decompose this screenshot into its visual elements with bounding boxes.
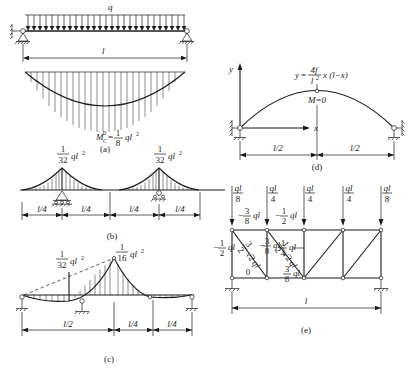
peak-label-left-b: 1 32 ql 2 <box>57 144 85 165</box>
span-label-e: l <box>305 296 308 306</box>
load-1-num: ql <box>234 183 242 193</box>
support-right-c <box>186 295 198 311</box>
bottom-chord-2-den: 8 <box>285 274 290 284</box>
eq-lhs: y <box>294 70 299 80</box>
top-chord-1-sign: − <box>238 210 243 220</box>
eq-numerator: 4f <box>310 65 319 75</box>
left-vert-den: 2 <box>220 248 225 258</box>
panel-e-caption: (e) <box>301 325 311 335</box>
support-left-c <box>16 295 28 311</box>
moment-curve-left-b <box>22 168 102 190</box>
dim-c-2: l/4 <box>128 319 138 329</box>
load-5-den: 8 <box>385 194 390 204</box>
load-label-4: ql 4 <box>344 183 354 204</box>
dimensions-d: l/2 l/2 <box>240 105 394 160</box>
bottom-chord-2-num: 3 <box>285 264 290 274</box>
top-chord-1-term: ql <box>253 210 261 220</box>
peak-small-den: 32 <box>58 260 67 270</box>
peak-large-sup: 2 <box>141 248 144 254</box>
y-axis-label: y <box>228 64 233 74</box>
top-chord-2-term: ql <box>290 210 298 220</box>
moment-curve-right-b <box>119 168 199 190</box>
support-center-c <box>75 299 89 314</box>
span-dimension-e: l <box>232 291 381 314</box>
support-left-d <box>230 120 247 140</box>
eq-denominator: l <box>311 76 314 86</box>
bottom-chord-2-term: ql <box>293 268 301 278</box>
peak-label-small-c: 1 32 ql 2 <box>56 249 84 270</box>
dim-c-1: l/2 <box>63 319 73 329</box>
peak-large-den: 16 <box>118 253 128 263</box>
distributed-load-arrows-a <box>26 15 186 30</box>
moment-term: ql <box>125 132 133 142</box>
mid-vert-term: ql <box>289 242 297 252</box>
left-vert-term: ql <box>228 242 236 252</box>
left-vert-sign: − <box>213 242 218 252</box>
load-label-1: ql 8 <box>233 183 243 204</box>
panel-d-caption: (d) <box>312 162 323 172</box>
load-4-den: 4 <box>347 194 352 204</box>
span-label-a: l <box>102 46 105 56</box>
arch-equation-d: y = 4f l 2 x (l−x) <box>294 65 348 86</box>
moment-zero-label: M=0 <box>307 95 327 105</box>
peak-right-num: 1 <box>158 144 163 154</box>
peak-small-term: ql <box>70 256 78 266</box>
moment-superscript: 0 <box>103 130 106 136</box>
diag-2-term: ql <box>273 240 281 250</box>
peak-right-sup: 2 <box>179 150 182 156</box>
eq-denominator-sup: 2 <box>316 75 319 81</box>
y-axis-d: y <box>228 63 242 128</box>
load-label-2: ql 4 <box>268 183 278 204</box>
dim-d-1: l/2 <box>273 143 283 153</box>
dim-b-2: l/4 <box>81 204 91 214</box>
moment-term-sup: 2 <box>136 131 139 137</box>
panel-c: 1 32 ql 2 1 16 ql 2 <box>14 240 229 368</box>
dim-b-4: l/4 <box>175 204 185 214</box>
peak-small-num: 1 <box>60 249 65 259</box>
load-label-5: ql 8 <box>382 183 392 204</box>
panel-c-caption: (c) <box>104 354 114 364</box>
support-center-right-b <box>151 191 166 202</box>
left-vert-num: 1 <box>220 238 225 248</box>
moment-diagram-a <box>25 72 185 132</box>
dimensions-c: l/2 l/4 l/4 <box>22 300 192 336</box>
mid-vert-den: 4 <box>281 248 286 258</box>
top-chord-2-sign: − <box>275 210 280 220</box>
support-right-d <box>388 120 405 140</box>
peak-right-den: 32 <box>156 155 165 165</box>
load-5-num: ql <box>383 183 391 193</box>
peak-left-den: 32 <box>59 155 68 165</box>
diag-2-num: 3 <box>265 236 270 246</box>
eq-equals: = <box>301 70 306 80</box>
moment-numerator: 1 <box>116 128 121 138</box>
support-center-left-b <box>52 191 72 207</box>
top-chord-2-den: 2 <box>282 216 287 226</box>
diag-1-coef-den: 2 <box>236 245 247 255</box>
peak-left-term: ql <box>71 151 79 161</box>
dim-b-1: l/4 <box>37 204 47 214</box>
load-3-den: 4 <box>308 194 313 204</box>
diag-2-den: 8 <box>265 246 270 256</box>
panel-a: q <box>0 0 225 152</box>
peak-large-num: 1 <box>120 242 125 252</box>
top-chord-1-den: 8 <box>245 216 250 226</box>
moment-equals: = <box>108 132 113 142</box>
load-4-num: ql <box>345 183 353 193</box>
load-2-num: ql <box>269 183 277 193</box>
eq-rest: x (l−x) <box>322 70 348 80</box>
span-dimension-a: l <box>23 44 187 62</box>
bottom-chord-1: 0 <box>246 267 251 277</box>
dim-b-3: l/4 <box>129 204 139 214</box>
dim-c-3: l/4 <box>167 319 177 329</box>
dim-d-2: l/2 <box>350 143 360 153</box>
peak-small-sup: 2 <box>81 255 84 261</box>
peak-left-sup: 2 <box>82 150 85 156</box>
panel-a-load-label: q <box>108 2 113 12</box>
panel-e: ql 8 ql 4 ql 4 ql 4 ql 8 <box>215 178 415 378</box>
load-2-den: 4 <box>271 194 276 204</box>
diag-2-sign: − <box>259 240 264 250</box>
peak-large-term: ql <box>130 249 138 259</box>
panel-d: y x y = 4f l 2 x (l−x) M=0 <box>222 58 415 170</box>
load-labels-e: ql 8 ql 4 ql 4 ql 4 ql 8 <box>233 183 392 204</box>
top-chord-1-num: 3 <box>245 206 250 216</box>
